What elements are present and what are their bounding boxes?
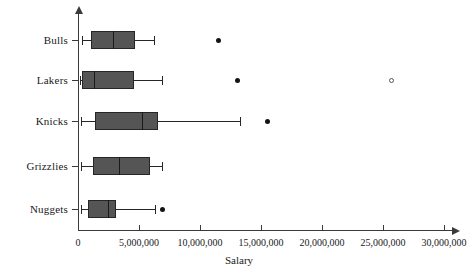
- box: [88, 200, 116, 218]
- x-axis-tick: [200, 225, 201, 231]
- y-axis-tick: [72, 166, 79, 167]
- y-axis-category-label: Grizzlies: [0, 161, 68, 172]
- outlier-point: [160, 207, 165, 212]
- x-axis-tick: [383, 225, 384, 231]
- box: [93, 157, 150, 175]
- whisker-cap-high: [240, 117, 241, 126]
- y-axis-category-label: Lakers: [0, 75, 68, 86]
- whisker-low: [81, 121, 95, 122]
- whisker-cap-low: [81, 117, 82, 126]
- x-axis-tick-label: 30,000,000: [399, 238, 475, 248]
- y-axis-tick: [72, 40, 79, 41]
- whisker-low: [82, 40, 91, 41]
- whisker-cap-high: [154, 36, 155, 45]
- whisker-high: [150, 166, 162, 167]
- x-axis-tick: [78, 225, 79, 231]
- whisker-cap-low: [81, 162, 82, 171]
- box: [95, 112, 158, 130]
- x-axis-title: Salary: [225, 255, 253, 266]
- whisker-cap-high: [162, 162, 163, 171]
- y-axis-line: [78, 14, 79, 230]
- x-axis-arrow-icon: [452, 227, 460, 235]
- y-axis-category-label: Nuggets: [0, 204, 68, 215]
- x-axis-tick: [261, 225, 262, 231]
- box: [82, 71, 133, 89]
- outlier-point: [389, 78, 394, 83]
- x-axis-tick: [444, 225, 445, 231]
- median-line: [119, 157, 120, 175]
- outlier-point: [265, 119, 270, 124]
- whisker-low: [81, 166, 93, 167]
- boxplot-chart: 05,000,00010,000,00015,000,00020,000,000…: [0, 0, 475, 280]
- y-axis-tick: [72, 209, 79, 210]
- whisker-high: [158, 121, 240, 122]
- y-axis-category-label: Knicks: [0, 116, 68, 127]
- y-axis-tick: [72, 80, 79, 81]
- whisker-cap-low: [81, 205, 82, 214]
- outlier-point: [216, 38, 221, 43]
- median-line: [113, 31, 114, 49]
- y-axis-arrow-icon: [75, 6, 83, 14]
- median-line: [94, 71, 95, 89]
- y-axis-category-label: Bulls: [0, 35, 68, 46]
- x-axis-tick: [139, 225, 140, 231]
- whisker-high: [134, 80, 162, 81]
- median-line: [142, 112, 143, 130]
- whisker-high: [116, 209, 155, 210]
- x-axis-tick: [322, 225, 323, 231]
- whisker-cap-low: [82, 36, 83, 45]
- whisker-cap-high: [155, 205, 156, 214]
- y-axis-tick: [72, 121, 79, 122]
- median-line: [108, 200, 109, 218]
- whisker-high: [135, 40, 154, 41]
- whisker-low: [81, 209, 88, 210]
- whisker-cap-high: [162, 76, 163, 85]
- x-axis-line: [78, 230, 453, 231]
- outlier-point: [235, 78, 240, 83]
